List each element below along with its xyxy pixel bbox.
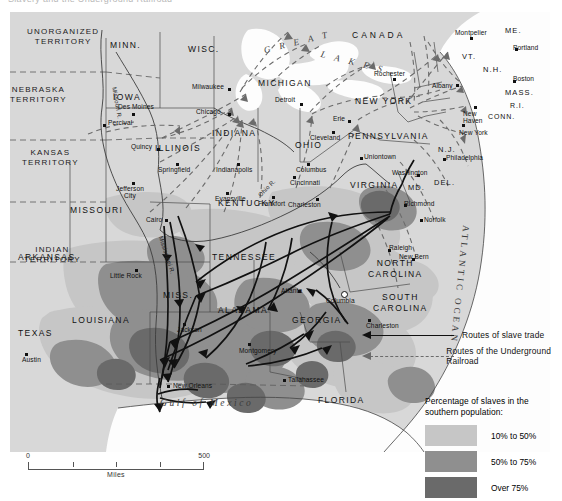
legend-label-underground-railroad: Routes of the Underground Railroad: [446, 346, 562, 366]
city-dot-evansville: [226, 192, 229, 195]
city-dot-new-bern: [412, 258, 415, 261]
city-dot-frankfort: [272, 196, 275, 199]
city-dot-atlanta: [298, 290, 301, 293]
city-dot-des-moines: [132, 113, 135, 116]
city-dot-charleston-wv: [316, 198, 319, 201]
scale-label-units: Miles: [107, 471, 125, 478]
city-dot-rochester: [393, 78, 396, 81]
city-dot-cincinnati: [293, 176, 296, 179]
city-dot-cairo: [165, 219, 168, 222]
scale-label-zero: 0: [26, 452, 30, 459]
legend-label-10-50: 10% to 50%: [491, 431, 536, 441]
legend-label-slave-trade: Routes of slave trade: [462, 330, 544, 340]
legend-density-row-1: 10% to 50%: [425, 425, 536, 446]
city-dot-richmond: [404, 204, 407, 207]
city-dot-jefferson-city: [132, 182, 135, 185]
city-dot-new-orleans: [167, 385, 170, 388]
map-canvas: [10, 12, 550, 452]
legend-label-50-75: 50% to 75%: [491, 457, 536, 467]
city-dot-albany: [456, 84, 459, 87]
city-dot-raleigh: [388, 249, 391, 252]
legend-swatch-10-50: [425, 425, 477, 446]
scale-bar-track: [28, 462, 204, 470]
city-dot-springfield: [176, 163, 179, 166]
city-dot-new-york: [462, 124, 465, 127]
city-dot-detroit: [300, 103, 303, 106]
legend-row-slave-trade: Routes of slave trade: [362, 330, 562, 340]
city-dot-columbus: [307, 163, 310, 166]
city-dot-montpelier: [470, 37, 473, 40]
scale-label-max: 500: [198, 452, 210, 459]
map-figure: Slavery and the Underground Railroad: [0, 0, 562, 501]
legend-routes: Routes of slave trade Routes of the Unde…: [362, 330, 562, 372]
legend-label-over-75: Over 75%: [491, 483, 528, 493]
city-dot-montgomery: [248, 343, 251, 346]
city-dot-indianapolis: [237, 163, 240, 166]
legend-density-row-2: 50% to 75%: [425, 451, 536, 472]
city-dot-washington: [417, 174, 420, 177]
city-dot-new-haven: [474, 106, 477, 109]
city-dot-milwaukee: [228, 88, 231, 91]
city-dot-boston: [513, 80, 516, 83]
city-dot-chicago: [228, 113, 231, 116]
city-dot-quincy: [157, 148, 160, 151]
legend-density: Percentage of slaves in the southern pop…: [425, 396, 536, 501]
city-dot-philadelphia: [443, 158, 446, 161]
legend-row-underground-railroad: Routes of the Underground Railroad: [362, 346, 562, 366]
legend-swatch-50-75: [425, 451, 477, 472]
city-dot-uniontown: [360, 157, 363, 160]
city-dot-percival: [103, 124, 106, 127]
city-dot-erie: [348, 120, 351, 123]
city-dot-jackson: [183, 323, 186, 326]
legend-density-title: Percentage of slaves in the southern pop…: [425, 396, 536, 418]
legend-swatch-over-75: [425, 477, 477, 498]
city-dot-charleston-sc: [368, 319, 371, 322]
city-dot-portland: [515, 48, 518, 51]
city-dot-little-rock: [135, 269, 138, 272]
city-dot-tallahassee: [283, 379, 286, 382]
legend-density-row-3: Over 75%: [425, 477, 536, 498]
scale-bar: 0 500 Miles: [28, 462, 204, 470]
city-dot-norfolk: [420, 219, 423, 222]
figure-title: Slavery and the Underground Railroad: [8, 0, 308, 6]
city-dot-cleveland: [332, 131, 335, 134]
slave-trade-line-sample: [362, 331, 454, 340]
city-star-columbia: [341, 291, 348, 298]
ugrr-line-sample: [362, 352, 438, 361]
city-dot-austin: [25, 353, 28, 356]
map-svg: [10, 12, 550, 452]
